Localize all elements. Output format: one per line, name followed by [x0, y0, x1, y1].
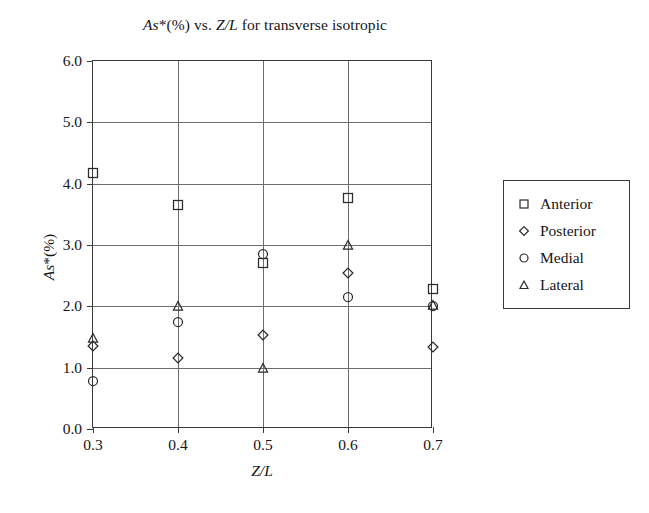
legend-item-posterior[interactable]: Posterior	[514, 217, 625, 244]
legend-item-anterior[interactable]: Anterior	[514, 190, 625, 217]
x-axis-tick-label: 0.5	[253, 436, 272, 454]
x-axis-tick	[348, 427, 349, 433]
legend-item-lateral[interactable]: Lateral	[514, 271, 625, 298]
legend-item-medial[interactable]: Medial	[514, 244, 625, 271]
x-axis-tick-label: 0.7	[423, 436, 442, 454]
data-point-posterior	[343, 267, 354, 278]
legend-label: Anterior	[540, 195, 593, 213]
legend-label: Medial	[540, 249, 584, 267]
y-axis-title-italic: As	[40, 264, 57, 280]
chart-title-part-2: *(%) vs.	[159, 16, 216, 33]
y-axis-tick	[87, 306, 93, 307]
y-axis-title-upright: *(%)	[40, 233, 57, 264]
triangle-marker-icon	[514, 280, 534, 290]
y-axis-title: As*(%)	[40, 233, 58, 280]
data-point-medial	[258, 249, 269, 260]
y-axis-tick	[87, 122, 93, 123]
data-point-lateral	[173, 301, 184, 312]
y-axis-tick	[87, 184, 93, 185]
y-axis-tick	[87, 61, 93, 62]
x-axis-tick	[433, 427, 434, 433]
y-axis-tick-label: 2.0	[63, 297, 82, 315]
legend-label: Lateral	[540, 276, 584, 294]
data-point-anterior	[173, 200, 184, 211]
y-axis-tick	[87, 245, 93, 246]
chart-figure: As*(%) vs. Z/L for transverse isotropic …	[0, 0, 649, 513]
gridline-horizontal	[93, 122, 431, 123]
data-point-lateral	[343, 240, 354, 251]
chart-title-part-1: As	[143, 16, 159, 33]
y-axis-tick-label: 1.0	[63, 359, 82, 377]
diamond-marker-icon	[514, 226, 534, 236]
y-axis-tick-label: 0.0	[63, 420, 82, 438]
x-axis-tick-label: 0.4	[168, 436, 187, 454]
legend-label: Posterior	[540, 222, 596, 240]
data-point-posterior	[428, 342, 439, 353]
gridline-horizontal	[93, 245, 431, 246]
legend: AnteriorPosteriorMedialLateral	[503, 180, 630, 309]
plot-area: 0.01.02.03.04.05.06.0 0.30.40.50.60.7	[92, 60, 432, 428]
data-point-posterior	[173, 353, 184, 364]
gridline-horizontal	[93, 306, 431, 307]
data-point-medial	[343, 292, 354, 303]
data-point-lateral	[88, 333, 99, 344]
y-axis-tick-label: 6.0	[63, 52, 82, 70]
x-axis-tick-label: 0.6	[338, 436, 357, 454]
data-point-medial	[88, 376, 99, 387]
x-axis-title: Z/L	[92, 462, 432, 480]
x-axis-tick-label: 0.3	[83, 436, 102, 454]
square-marker-icon	[514, 199, 534, 209]
gridline-vertical	[178, 61, 179, 427]
gridline-horizontal	[93, 184, 431, 185]
chart-title-part-3: Z/L	[216, 16, 238, 33]
chart-title-part-4: for transverse isotropic	[238, 16, 387, 33]
data-point-anterior	[88, 168, 99, 179]
chart-title: As*(%) vs. Z/L for transverse isotropic	[70, 16, 460, 34]
data-point-anterior	[343, 192, 354, 203]
data-point-medial	[173, 316, 184, 327]
data-point-posterior	[258, 330, 269, 341]
data-point-lateral	[428, 300, 439, 311]
y-axis-tick-label: 5.0	[63, 113, 82, 131]
x-axis-tick	[263, 427, 264, 433]
y-axis-tick	[87, 368, 93, 369]
x-axis-tick	[178, 427, 179, 433]
data-point-lateral	[258, 362, 269, 373]
circle-marker-icon	[514, 253, 534, 263]
y-axis-tick-label: 4.0	[63, 175, 82, 193]
x-axis-tick	[93, 427, 94, 433]
y-axis-tick-label: 3.0	[63, 236, 82, 254]
data-point-anterior	[428, 284, 439, 295]
